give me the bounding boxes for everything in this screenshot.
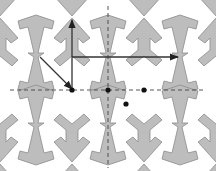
point-d	[123, 101, 128, 106]
tile	[126, 0, 162, 16]
point-b	[105, 87, 110, 92]
tile	[0, 114, 18, 162]
tile	[198, 114, 216, 162]
tile	[54, 114, 90, 162]
tile	[162, 15, 198, 95]
tile	[54, 164, 90, 171]
tile	[0, 0, 18, 16]
tile	[126, 164, 162, 171]
tile	[198, 18, 216, 66]
tile	[126, 114, 162, 162]
tile	[18, 85, 54, 165]
tile	[126, 18, 162, 66]
tile	[0, 164, 18, 171]
tile	[54, 0, 90, 16]
point-a	[69, 87, 74, 92]
tile	[198, 0, 216, 16]
point-c	[141, 87, 146, 92]
tiling-diagram	[0, 0, 216, 171]
tile	[198, 164, 216, 171]
tile	[0, 18, 18, 66]
tile	[18, 15, 54, 95]
tile	[162, 85, 198, 165]
